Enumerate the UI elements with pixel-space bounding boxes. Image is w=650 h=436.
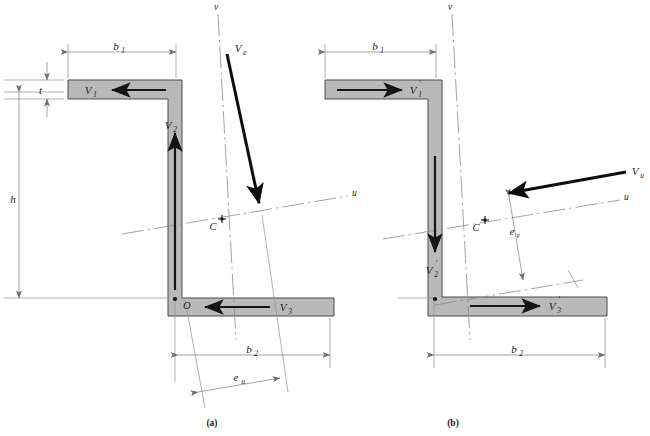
u-axis-label-b: u [624,192,629,202]
svg-text:2: 2 [434,270,438,279]
svg-text:2: 2 [519,349,523,358]
figure-root: h t b 1 b 2 e u u [0,0,650,436]
origin-marker-a [173,297,177,301]
svg-text:b: b [511,343,517,355]
dim-label-h-a: h [10,193,16,205]
svg-text:3: 3 [287,307,292,316]
svg-text:1: 1 [380,46,384,55]
svg-text:u: u [241,377,245,386]
panel-caption-a: (a) [206,418,217,429]
svg-text:1: 1 [418,90,422,99]
svg-text:e: e [234,371,239,383]
origin-label-a: O [183,300,191,311]
svg-text:1: 1 [121,46,125,55]
panel-caption-b: (b) [447,418,459,429]
svg-text:b: b [113,40,119,52]
centroid-label-b: C [472,222,480,233]
svg-text:e: e [510,225,515,237]
svg-text:2: 2 [254,349,258,358]
svg-text:u: u [640,171,644,180]
svg-text:2: 2 [173,125,177,134]
engineering-figure: h t b 1 b 2 e u u [0,0,650,436]
svg-text:b: b [246,343,252,355]
u-axis-label-a: u [352,188,357,198]
centroid-label-a: C [209,221,217,232]
svg-text:b: b [372,40,378,52]
corner-marker-b [433,297,437,301]
svg-text:3: 3 [556,306,561,315]
svg-text:1: 1 [93,90,97,99]
